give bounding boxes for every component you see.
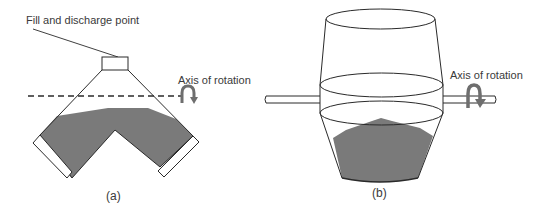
upper-cone-left-side [320, 19, 326, 85]
fill-point-leader-line [33, 29, 118, 57]
blender-diagram [0, 0, 542, 211]
top-opening-ellipse [326, 9, 435, 29]
axis-of-rotation-label-b: Axis of rotation [450, 69, 523, 81]
powder-fill-b [333, 118, 433, 182]
axis-of-rotation-label-a: Axis of rotation [178, 74, 251, 86]
caption-a: (a) [106, 190, 121, 203]
caption-b: (b) [372, 187, 387, 200]
panel-b-double-cone [265, 9, 496, 182]
upper-band-ellipse [320, 73, 443, 97]
panel-a-v-blender [28, 29, 199, 178]
upper-cone-right-side [435, 19, 443, 85]
rotation-arrow-icon-a [182, 86, 198, 104]
fill-discharge-label: Fill and discharge point [26, 14, 139, 26]
shaft-left [265, 96, 320, 103]
fill-discharge-box [102, 57, 128, 70]
